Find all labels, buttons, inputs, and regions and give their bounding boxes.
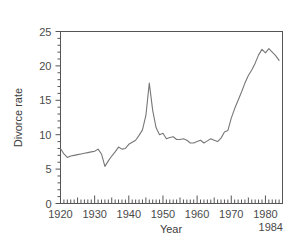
plot-frame	[61, 32, 283, 204]
x-tick-label: 1920	[48, 208, 72, 220]
chart-figure: 0510152025 1920193019401950196019701980 …	[0, 0, 301, 251]
series-group	[61, 49, 280, 167]
x-tick-label: 1940	[117, 208, 141, 220]
divorce-rate-line-chart: 0510152025 1920193019401950196019701980 …	[0, 0, 301, 251]
y-axis: 0510152025	[39, 26, 60, 210]
x-tick-label: 1930	[82, 208, 106, 220]
divorce-rate-line	[61, 49, 280, 167]
x-axis: 1920193019401950196019701980	[48, 196, 282, 220]
x-tick-label: 1960	[185, 208, 209, 220]
y-tick-label: 20	[39, 60, 51, 72]
x-axis-title: Year	[160, 223, 183, 235]
x-tick-label: 1970	[219, 208, 243, 220]
y-tick-label: 15	[39, 94, 51, 106]
y-axis-title: Divorce rate	[12, 88, 24, 147]
x-tick-label: 1980	[253, 208, 277, 220]
x-tick-label: 1950	[151, 208, 175, 220]
end-year-annotation: 1984	[259, 221, 283, 233]
y-tick-label: 5	[45, 163, 51, 175]
plot-border	[61, 32, 283, 204]
y-tick-label: 25	[39, 26, 51, 38]
y-tick-label: 10	[39, 129, 51, 141]
